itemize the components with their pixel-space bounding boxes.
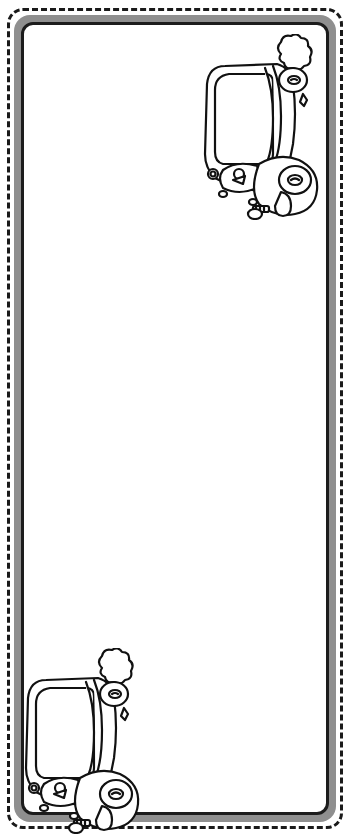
car-illustration-top — [203, 34, 328, 220]
car-illustration-bottom — [24, 648, 149, 834]
car-icon — [203, 34, 328, 220]
car-icon — [24, 648, 149, 834]
